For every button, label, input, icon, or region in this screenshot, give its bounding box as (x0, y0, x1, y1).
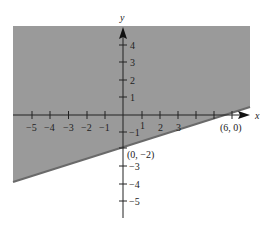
svg-text:−5: −5 (26, 122, 37, 133)
svg-text:−3: −3 (129, 161, 140, 172)
inequality-graph: x y −5 −4 −3 −2 −1 1 2 3 (0, 0, 265, 230)
svg-text:2: 2 (130, 75, 135, 86)
svg-text:1: 1 (140, 120, 145, 131)
svg-text:2: 2 (158, 122, 163, 133)
svg-text:−4: −4 (44, 122, 55, 133)
svg-text:−3: −3 (63, 122, 74, 133)
x-axis-label: x (254, 110, 260, 121)
y-axis-label: y (119, 12, 125, 23)
svg-text:−4: −4 (129, 179, 140, 190)
svg-text:−5: −5 (129, 196, 140, 207)
point-label-x-intercept: (6, 0) (220, 122, 242, 134)
svg-text:1: 1 (130, 92, 135, 103)
svg-text:−2: −2 (81, 122, 92, 133)
svg-text:3: 3 (130, 57, 135, 68)
svg-text:−1: −1 (129, 127, 140, 138)
svg-text:3: 3 (176, 122, 181, 133)
svg-text:4: 4 (130, 40, 135, 51)
x-tick-labels: −5 −4 −3 −2 −1 1 2 3 (26, 120, 181, 133)
svg-text:−1: −1 (99, 122, 110, 133)
point-label-y-intercept: (0, −2) (127, 149, 154, 161)
